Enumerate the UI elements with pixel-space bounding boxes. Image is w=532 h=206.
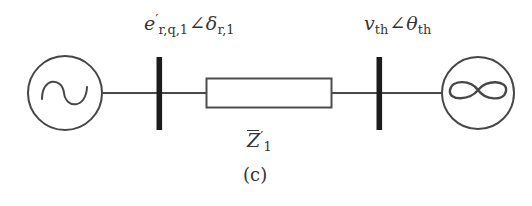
label-thevenin-symbol: v — [364, 12, 375, 34]
label-thevenin-voltage: vth∠θth — [364, 14, 431, 33]
angle-glyph-right: ∠ — [388, 12, 406, 35]
label-impedance: Z′1 — [247, 130, 272, 150]
label-source-angle-subscript: r,1 — [217, 22, 234, 37]
figure-single-line-diagram: e′r,q,1∠δr,1 vth∠θth Z′1 (c) — [0, 0, 532, 206]
label-source-angle-symbol: δ — [206, 12, 218, 34]
label-thevenin-angle-symbol: θ — [406, 12, 418, 34]
infinite-bus-symbol — [442, 57, 514, 129]
label-source-voltage-symbol: e — [144, 12, 155, 34]
bus-bar-right — [377, 57, 383, 130]
figure-caption: (c) — [243, 166, 267, 184]
label-thevenin-angle-subscript: th — [418, 22, 432, 37]
label-impedance-symbol: Z — [247, 130, 260, 150]
label-impedance-subscript: 1 — [264, 139, 272, 154]
label-source-voltage-subscript: r,q,1 — [159, 22, 188, 37]
label-thevenin-subscript: th — [375, 22, 389, 37]
label-source-voltage: e′r,q,1∠δr,1 — [144, 14, 234, 33]
series-impedance-block — [207, 79, 332, 108]
infinite-bus-circle — [442, 57, 514, 129]
bus-bar-left — [157, 57, 163, 130]
ac-voltage-source-symbol — [28, 56, 102, 130]
angle-glyph-left: ∠ — [188, 12, 206, 35]
